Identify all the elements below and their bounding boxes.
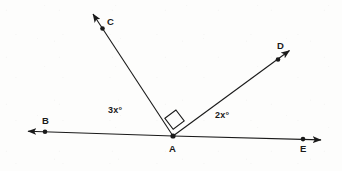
geometry-diagram: B C D E A 3x° 2x°: [0, 0, 342, 171]
point-dot-a: [170, 133, 175, 138]
point-label-c: C: [107, 17, 114, 27]
point-dot-b: [43, 130, 48, 135]
ray-ad: [173, 51, 290, 137]
point-dot-e: [301, 137, 306, 142]
angle-label-2x: 2x°: [215, 111, 229, 120]
right-angle-mark-icon: [165, 110, 184, 129]
point-label-d: D: [277, 41, 284, 51]
ray-ae-segment: [173, 136, 321, 140]
ray-ac: [93, 14, 173, 136]
point-dot-d: [276, 57, 281, 62]
angle-label-3x: 3x°: [108, 106, 122, 115]
point-dot-c: [100, 26, 105, 31]
point-label-b: B: [42, 116, 49, 126]
ray-ab-segment: [28, 131, 173, 136]
point-label-e: E: [300, 144, 307, 154]
point-label-a: A: [169, 144, 176, 154]
